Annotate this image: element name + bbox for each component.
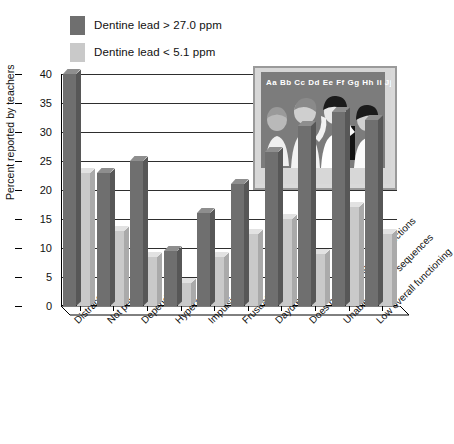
y-axis-tick-mark — [15, 277, 22, 278]
bar-face — [298, 126, 311, 306]
y-axis-tick-mark — [15, 248, 22, 249]
bar — [97, 173, 110, 306]
y-axis-tick-mark — [15, 132, 22, 133]
bar — [265, 152, 278, 306]
y-axis-tick-label: 5 — [22, 271, 52, 283]
y-axis-tick-mark — [15, 306, 22, 307]
bar-side-3d — [157, 252, 162, 306]
bar-face — [130, 161, 143, 306]
plot-area: 0510152025303540 — [61, 74, 397, 306]
bar — [63, 74, 76, 306]
y-axis-tick-label: 25 — [22, 155, 52, 167]
legend-label-low-lead: Dentine lead < 5.1 ppm — [94, 46, 215, 58]
legend-label-high-lead: Dentine lead > 27.0 ppm — [94, 19, 222, 31]
bar-group — [63, 74, 97, 306]
bar-side-3d — [378, 116, 383, 306]
legend-item-low-lead: Dentine lead < 5.1 ppm — [70, 41, 222, 63]
bar-side-3d — [177, 246, 182, 306]
bar-side-3d — [191, 278, 196, 306]
bar-face — [63, 74, 76, 306]
bar-side-3d — [359, 203, 364, 306]
bar-side-3d — [76, 69, 81, 306]
y-axis-tick-label: 40 — [22, 68, 52, 80]
axis-floor-3d — [61, 306, 397, 315]
bar-side-3d — [143, 156, 148, 306]
bar-side-3d — [345, 107, 350, 306]
bar — [332, 112, 345, 306]
y-axis-tick-mark — [15, 161, 22, 162]
bar-side-3d — [278, 148, 283, 306]
y-axis-tick-label: 0 — [22, 300, 52, 312]
bar-side-3d — [325, 249, 330, 306]
bar-side-3d — [292, 214, 297, 306]
y-axis-tick-label: 10 — [22, 242, 52, 254]
bar-side-3d — [258, 229, 263, 306]
bar — [298, 126, 311, 306]
bar-face — [197, 213, 210, 306]
chart-legend: Dentine lead > 27.0 ppm Dentine lead < 5… — [70, 14, 222, 68]
bar — [197, 213, 210, 306]
bar-side-3d — [124, 226, 129, 306]
bar-group — [164, 74, 198, 306]
y-axis-tick-mark — [15, 219, 22, 220]
bar-face — [265, 152, 278, 306]
legend-swatch-high-lead — [70, 16, 85, 35]
bar-face — [332, 112, 345, 306]
bar-group — [97, 74, 131, 306]
svg-text:Aa Bb Cc Dd Ee Ff Gg Hh Ii Jj: Aa Bb Cc Dd Ee Ff Gg Hh Ii Jj — [266, 78, 391, 87]
y-axis-tick-label: 15 — [22, 213, 52, 225]
bar-face — [231, 184, 244, 306]
y-axis-tick-mark — [15, 190, 22, 191]
bar-side-3d — [392, 229, 397, 306]
bar — [231, 184, 244, 306]
bar-group — [197, 74, 231, 306]
bar-face — [365, 120, 378, 306]
bar — [164, 251, 177, 306]
legend-swatch-low-lead — [70, 43, 85, 62]
legend-item-high-lead: Dentine lead > 27.0 ppm — [70, 14, 222, 36]
bar-side-3d — [110, 168, 115, 306]
bar-side-3d — [224, 252, 229, 306]
bar-face — [97, 173, 110, 306]
bar — [130, 161, 143, 306]
y-axis-tick-label: 35 — [22, 97, 52, 109]
bar-face — [164, 251, 177, 306]
bar-side-3d — [311, 122, 316, 306]
y-axis-tick-label: 30 — [22, 126, 52, 138]
bar — [365, 120, 378, 306]
bar-group — [130, 74, 164, 306]
y-axis-tick-mark — [15, 103, 22, 104]
y-axis-tick-label: 20 — [22, 184, 52, 196]
y-axis-tick-mark — [15, 74, 22, 75]
bar-side-3d — [244, 180, 249, 306]
bar-side-3d — [210, 209, 215, 306]
bar-side-3d — [90, 168, 95, 306]
